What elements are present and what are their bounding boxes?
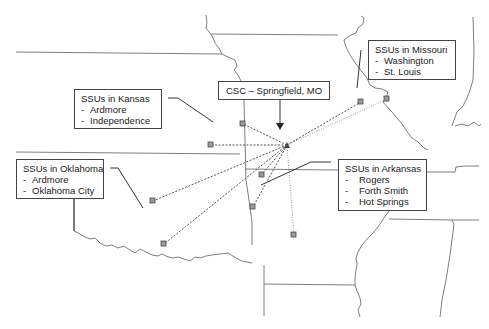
border-ks-ok	[16, 152, 240, 154]
border-ia-mo	[211, 34, 338, 35]
border-ok-ar	[246, 180, 252, 245]
link-missouri-washington	[287, 102, 361, 145]
group-item: -Ardmore	[23, 174, 97, 185]
group-title-kansas: SSUs in Kansas	[81, 93, 155, 104]
ssu-marker-missouri-washington[interactable]	[358, 99, 363, 104]
group-title-oklahoma: SSUs in Oklahoma	[23, 163, 97, 174]
arrow-down-icon	[276, 123, 284, 130]
ssu-marker-kansas-independence[interactable]	[208, 142, 213, 147]
group-box-arkansas: SSUs in Arkansas -Rogers -Forth Smith -H…	[338, 159, 427, 211]
link-arkansas-fortsmith	[253, 145, 287, 207]
group-box-missouri: SSUs in Missouri -Washington -St. Louis	[368, 40, 456, 80]
group-title-missouri: SSUs in Missouri	[375, 44, 449, 55]
border-ks-mo	[244, 100, 246, 180]
border-ne-ks	[16, 52, 222, 54]
callout-oklahoma	[110, 168, 143, 208]
border-ar-la	[264, 284, 355, 285]
callout-kansas	[168, 98, 213, 122]
callout-missouri	[357, 50, 361, 88]
hub-label: CSC – Springfield, MO	[226, 85, 322, 96]
group-item: -Oklahoma City	[23, 185, 97, 196]
group-item: -Washington	[375, 55, 449, 66]
ssu-marker-kansas-ardmore[interactable]	[240, 121, 245, 126]
ssu-marker-oklahoma-ardmore[interactable]	[161, 241, 166, 246]
link-arkansas-hotsprings	[287, 145, 294, 235]
callout-lines	[74, 50, 361, 231]
group-item: -Hot Springs	[345, 196, 420, 207]
border-red-river	[74, 231, 252, 263]
border-ms-al	[440, 220, 454, 317]
border-mississippi-lower	[355, 203, 392, 317]
border-ohio-river	[455, 122, 481, 126]
group-item: -Rogers	[345, 174, 420, 185]
hub-label-box: CSC – Springfield, MO	[218, 81, 330, 100]
border-missouri-river-west	[206, 15, 241, 81]
ssu-marker-arkansas-hotsprings[interactable]	[291, 232, 296, 237]
ssu-marker-arkansas-fortsmith[interactable]	[250, 204, 255, 209]
group-title-arkansas: SSUs in Arkansas	[345, 163, 420, 174]
group-item: -St. Louis	[375, 66, 449, 77]
ssu-marker-arkansas-rogers[interactable]	[259, 172, 264, 177]
group-box-oklahoma: SSUs in Oklahoma -Ardmore -Oklahoma City	[16, 159, 104, 199]
link-oklahoma-ardmore	[164, 145, 287, 244]
border-mo-ar	[245, 169, 338, 170]
group-item: -Forth Smith	[345, 185, 420, 196]
link-missouri-stlouis	[287, 99, 387, 145]
ssu-marker-oklahoma-okc[interactable]	[150, 198, 155, 203]
group-item: -Independence	[81, 115, 155, 126]
group-item: -Ardmore	[81, 104, 155, 115]
border-tn-ms	[389, 219, 452, 220]
group-box-kansas: SSUs in Kansas -Ardmore -Independence	[74, 89, 162, 129]
border-mississippi-upper	[344, 16, 428, 150]
border-mo-ar-east	[427, 166, 479, 172]
ssu-marker-missouri-stlouis[interactable]	[384, 96, 389, 101]
hub-triangle-icon[interactable]	[284, 142, 290, 148]
